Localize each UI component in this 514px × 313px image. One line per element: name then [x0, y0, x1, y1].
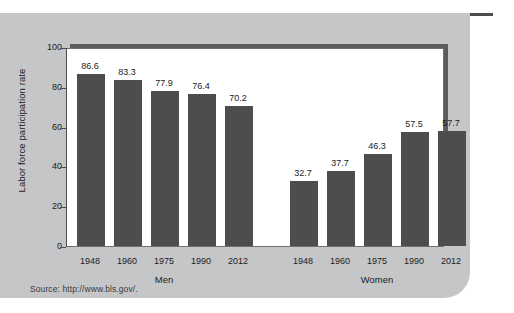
- x-axis-group-label: Women: [332, 275, 422, 285]
- bar: [364, 154, 392, 246]
- x-axis-tick-label: 1948: [283, 257, 323, 266]
- bar-value-label: 57.5: [394, 120, 434, 129]
- bar: [151, 91, 179, 246]
- x-axis-tick-label: 1990: [181, 257, 221, 266]
- source-note: Source: http://www.bls.gov/.: [30, 284, 138, 294]
- bar-value-label: 57.7: [431, 119, 470, 128]
- bar-value-label: 70.2: [218, 94, 258, 103]
- y-axis-tick: [60, 167, 66, 168]
- x-axis-tick-label: 1975: [144, 257, 184, 266]
- y-axis-tick: [60, 247, 66, 248]
- bar: [290, 181, 318, 246]
- bar: [327, 171, 355, 246]
- y-axis-tick: [60, 207, 66, 208]
- bar: [77, 74, 105, 246]
- bar: [225, 106, 253, 246]
- bar-value-label: 86.6: [70, 62, 110, 71]
- y-axis-line: [66, 48, 67, 247]
- bar: [188, 94, 216, 246]
- x-axis-tick-label: 2012: [218, 257, 258, 266]
- x-axis-tick-label: 1975: [357, 257, 397, 266]
- x-axis-tick-label: 1960: [320, 257, 360, 266]
- x-axis-tick-label: 1948: [70, 257, 110, 266]
- figure-card: 020406080100 Labor force participation r…: [0, 13, 470, 298]
- bar: [438, 131, 466, 246]
- bar-value-label: 77.9: [144, 79, 184, 88]
- x-axis-tick-label: 1960: [107, 257, 147, 266]
- bar: [401, 132, 429, 246]
- x-axis-tick-label: 1990: [394, 257, 434, 266]
- bar-value-label: 83.3: [107, 68, 147, 77]
- y-axis-tick: [60, 128, 66, 129]
- bar-value-label: 46.3: [357, 142, 397, 151]
- bar-value-label: 32.7: [283, 169, 323, 178]
- y-axis-tick: [60, 88, 66, 89]
- screenshot-root: 020406080100 Labor force participation r…: [0, 0, 514, 313]
- bar-value-label: 37.7: [320, 159, 360, 168]
- y-axis-tick: [60, 48, 66, 49]
- y-axis-title: Labor force participation rate: [16, 41, 27, 221]
- bar-value-label: 76.4: [181, 82, 221, 91]
- bar: [114, 80, 142, 246]
- x-axis-tick-label: 2012: [431, 257, 470, 266]
- y-axis-tick-label: 0: [20, 242, 62, 251]
